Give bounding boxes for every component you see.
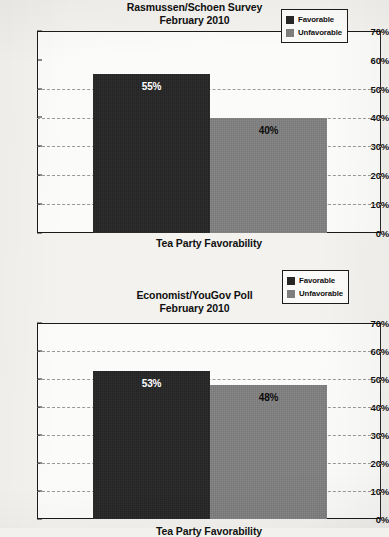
unfavorable-swatch-icon: [287, 290, 295, 298]
chart-1-ylabel-60: 60%: [356, 55, 389, 66]
chart-1-bar-favorable: 55%: [93, 74, 210, 233]
chart-1-bar-favorable-label: 55%: [93, 81, 210, 92]
chart-2-bar-favorable-label: 53%: [93, 378, 210, 389]
chart-2-legend-label-unfavorable: Unfavorable: [299, 289, 343, 298]
chart-2-ytick-70: [37, 323, 42, 324]
chart-2-legend-item-favorable: Favorable: [287, 274, 343, 287]
chart-2-plot-area: 53% 48%: [37, 323, 381, 519]
chart-2-axis-top: [37, 323, 381, 324]
chart-economist-yougov: Economist/YouGov Poll February 2010 53% …: [0, 264, 389, 528]
chart-2-ytick-20: [37, 463, 42, 464]
chart-2-ytick-40: [37, 407, 42, 408]
chart-2-legend: Favorable Unfavorable: [282, 270, 349, 304]
chart-rasmussen-schoen: Rasmussen/Schoen Survey February 2010 55…: [0, 0, 389, 264]
unfavorable-swatch-icon: [286, 29, 294, 37]
chart-1-ytick-70: [37, 31, 42, 32]
chart-1-bar-unfavorable: 40%: [210, 118, 327, 233]
chart-1-legend-label-unfavorable: Unfavorable: [298, 28, 342, 37]
chart-1-legend: Favorable Unfavorable: [281, 9, 348, 43]
chart-1-ylabel-70: 70%: [356, 26, 389, 37]
chart-2-ytick-10: [37, 491, 42, 492]
chart-2-ylabel-0: 0%: [356, 514, 389, 525]
chart-1-ytick-40: [37, 117, 42, 118]
chart-1-plot-area: 55% 40%: [37, 31, 381, 233]
chart-1-x-axis-title: Tea Party Favorability: [37, 237, 381, 249]
chart-1-ytick-50: [37, 89, 42, 90]
chart-2-ytick-60: [37, 351, 42, 352]
chart-1-legend-label-favorable: Favorable: [298, 15, 334, 24]
chart-1-ytick-20: [37, 175, 42, 176]
chart-2-x-axis-title: Tea Party Favorability: [37, 525, 381, 537]
favorable-swatch-icon: [287, 277, 295, 285]
chart-2-ytick-50: [37, 379, 42, 380]
chart-2-bar-unfavorable: 48%: [210, 385, 327, 519]
chart-2-title-line1: Economist/YouGov Poll: [136, 289, 252, 301]
chart-1-legend-item-unfavorable: Unfavorable: [286, 26, 342, 39]
chart-2-ytick-0: [37, 519, 42, 520]
chart-1-ytick-10: [37, 204, 42, 205]
chart-2-legend-item-unfavorable: Unfavorable: [287, 287, 343, 300]
chart-1-ytick-60: [37, 60, 42, 61]
chart-2-gridline-60: [37, 351, 381, 352]
chart-2-ylabel-70: 70%: [356, 318, 389, 329]
chart-1-ytick-0: [37, 233, 42, 234]
chart-2-ytick-30: [37, 435, 42, 436]
chart-2-bar-favorable: 53%: [93, 371, 210, 519]
chart-1-legend-item-favorable: Favorable: [286, 13, 342, 26]
chart-1-title-line1: Rasmussen/Schoen Survey: [127, 1, 262, 13]
favorable-swatch-icon: [286, 16, 294, 24]
chart-2-legend-label-favorable: Favorable: [299, 276, 335, 285]
chart-1-bar-unfavorable-label: 40%: [210, 125, 327, 136]
chart-2-bar-unfavorable-label: 48%: [210, 392, 327, 403]
chart-1-ytick-30: [37, 146, 42, 147]
